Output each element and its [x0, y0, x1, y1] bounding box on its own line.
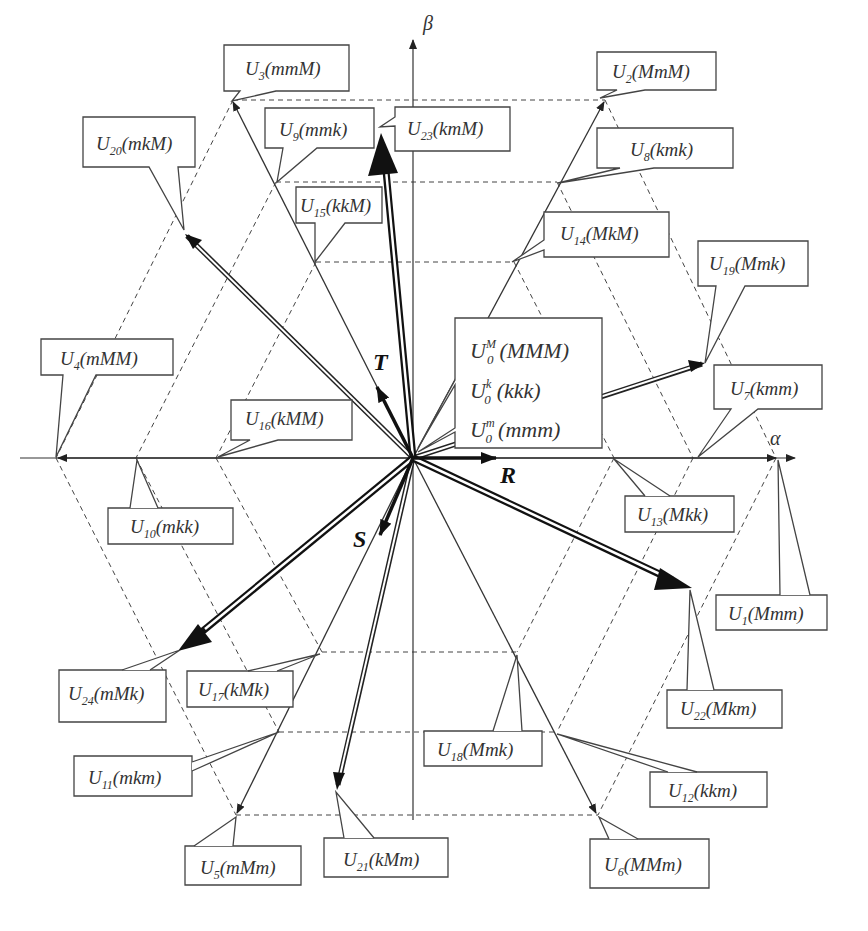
svg-text:Uk0(kkk): Uk0(kkk): [470, 377, 541, 407]
alpha-axis-label: α: [770, 427, 781, 449]
space-vector-diagram: α β: [0, 0, 868, 931]
svg-text:UM0(MMM): UM0(MMM): [470, 337, 569, 367]
control-vector-R: R: [499, 462, 516, 488]
beta-axis-label: β: [422, 12, 433, 35]
svg-text:Um0(mmm): Um0(mmm): [470, 416, 560, 446]
zero-vector-callout: UM0(MMM) Uk0(kkk) Um0(mmm): [418, 318, 602, 452]
control-vector-S: S: [353, 526, 366, 552]
control-vector-T: T: [373, 349, 389, 375]
